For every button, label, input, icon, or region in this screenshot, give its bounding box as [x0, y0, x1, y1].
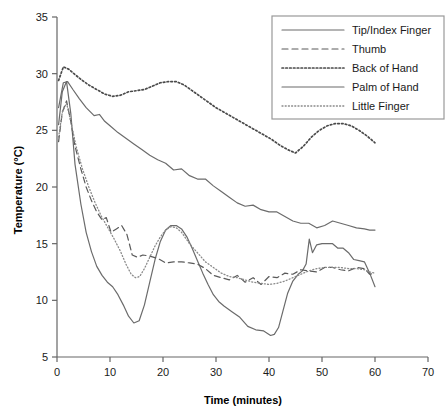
x-tick-label: 50 — [316, 366, 328, 378]
x-tick-label: 0 — [54, 366, 60, 378]
x-tick-label: 20 — [157, 366, 169, 378]
x-tick-label: 30 — [210, 366, 222, 378]
x-tick-label: 40 — [263, 366, 275, 378]
series-line — [59, 103, 375, 284]
legend-label: Thumb — [352, 43, 386, 55]
y-tick-label: 35 — [36, 11, 48, 23]
temperature-line-chart: 5101520253035 010203040506070 Temperatur… — [0, 0, 448, 414]
y-tick-label: 10 — [36, 294, 48, 306]
x-axis: 010203040506070 — [54, 357, 434, 378]
legend-label: Back of Hand — [352, 62, 418, 74]
legend-label: Tip/Index Finger — [352, 24, 431, 36]
x-tick-label: 60 — [369, 366, 381, 378]
legend-label: Palm of Hand — [352, 81, 419, 93]
y-tick-label: 15 — [36, 238, 48, 250]
y-tick-label: 25 — [36, 124, 48, 136]
y-tick-label: 30 — [36, 68, 48, 80]
chart-canvas: 5101520253035 010203040506070 Temperatur… — [0, 0, 448, 414]
x-tick-label: 10 — [104, 366, 116, 378]
chart-legend: Tip/Index FingerThumbBack of HandPalm of… — [272, 16, 444, 119]
series-line — [59, 82, 375, 336]
y-axis-title: Temperature (°C) — [12, 145, 24, 234]
y-tick-label: 5 — [42, 351, 48, 363]
series-line — [59, 101, 375, 285]
x-tick-label: 70 — [422, 366, 434, 378]
x-axis-title: Time (minutes) — [204, 394, 282, 406]
y-axis: 5101520253035 — [36, 11, 57, 363]
legend-label: Little Finger — [352, 100, 410, 112]
y-tick-label: 20 — [36, 181, 48, 193]
